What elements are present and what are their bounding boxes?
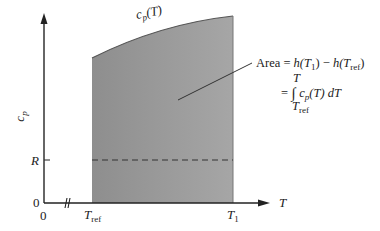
tref-open: (T: [339, 56, 350, 70]
area-prefix: Area =: [256, 56, 294, 70]
x-zero-label: 0: [40, 209, 47, 222]
minus: −: [320, 56, 333, 70]
y-axis-label-c: c: [12, 116, 27, 122]
t-ref-label: Tref: [84, 208, 101, 221]
x-axis-label: T: [279, 196, 286, 209]
y-axis-label-sub: p: [19, 111, 29, 116]
t1-label: T1: [227, 208, 239, 221]
t1-open: (T: [300, 56, 311, 70]
tref-close: ): [360, 56, 364, 70]
shaded-area: [92, 16, 233, 203]
r-tick-label: R: [31, 154, 39, 167]
t1-sub: 1: [234, 214, 239, 224]
integrand-rest: (T) dT: [309, 86, 341, 100]
integral-upper-limit: T: [293, 72, 300, 85]
integral-lower-limit: Tref: [292, 100, 309, 113]
y-zero-label: 0: [33, 196, 40, 209]
tref-sub-eq: ref: [350, 62, 360, 72]
lower-limit-sub: ref: [299, 105, 309, 115]
equals-sign: =: [281, 86, 291, 100]
curve-label-arg: (T): [145, 2, 163, 20]
area-equation-line1: Area = h(T1) − h(Tref): [256, 57, 365, 70]
integral-expression: = ∫cp(T) dT: [281, 85, 341, 100]
x-axis-arrow-icon: [258, 200, 270, 207]
t-ref-sub: ref: [91, 214, 101, 224]
cp-vs-t-diagram: [0, 0, 380, 231]
lower-limit-main: T: [292, 99, 299, 113]
t1-sub-eq: 1: [311, 62, 316, 72]
y-axis-label: cp: [13, 111, 26, 121]
y-axis-arrow-icon: [41, 13, 48, 24]
